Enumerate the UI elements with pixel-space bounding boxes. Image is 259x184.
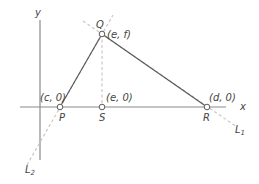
segment-pq <box>60 34 102 107</box>
point-p-label: P <box>59 112 66 123</box>
line-l1-label: L1 <box>235 124 245 137</box>
point-q-label: Q <box>96 19 104 30</box>
line-l2-label: L2 <box>25 164 36 177</box>
point-s-label: S <box>99 112 106 123</box>
point-r-label: R <box>203 112 210 123</box>
point-p <box>57 104 63 110</box>
point-q <box>99 31 105 37</box>
point-r-coords: (d, 0) <box>209 92 236 103</box>
x-axis-label: x <box>239 101 246 112</box>
triangle-diagram: y x Q P S R (e, f) (c, 0) (e, 0) (d, 0) … <box>0 0 259 184</box>
point-s <box>99 104 105 110</box>
y-axis-label: y <box>34 7 42 18</box>
point-p-coords: (c, 0) <box>40 92 66 103</box>
point-s-coords: (e, 0) <box>106 92 133 103</box>
point-r <box>204 104 210 110</box>
point-q-coords: (e, f) <box>107 29 131 40</box>
